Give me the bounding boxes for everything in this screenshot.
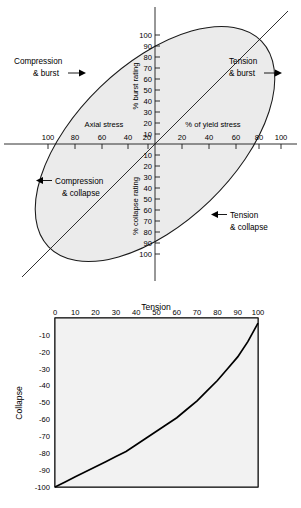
callout-tension-collapse-line2: & collapse — [230, 223, 268, 232]
arrow-right-icon — [275, 70, 282, 77]
x-tick-label: 40 — [132, 308, 140, 317]
x-tick-label: 100 — [252, 308, 265, 317]
arrow-right-icon — [79, 70, 86, 77]
callout-compression-collapse-line2: & collapse — [62, 189, 100, 198]
axis-label-axial-stress: Axial stress — [85, 120, 124, 129]
x-tick-label: 90 — [233, 308, 241, 317]
y-axis-tick-labels: -10-20-30-40-50-60-70-80-90-100 — [35, 331, 50, 492]
tension-collapse-chart-figure: 0102030405060708090100 -10-20-30-40-50-6… — [0, 300, 301, 508]
y-tick-label: -10 — [39, 331, 50, 340]
x-tick-label: 10 — [71, 308, 79, 317]
x-tick-right-80: 80 — [255, 133, 263, 142]
x-tick-right-60: 60 — [232, 133, 240, 142]
y-tick-burst-90: 90 — [144, 42, 152, 51]
callout-compression-burst-line2: & burst — [33, 69, 60, 78]
y-tick-label: -70 — [39, 432, 50, 441]
y-tick-label: -20 — [39, 348, 50, 357]
axis-label-collapse-rating: % collapse rating — [131, 177, 140, 235]
axis-label-burst-rating: % burst rating — [131, 63, 140, 110]
y-tick-label: -50 — [39, 398, 50, 407]
x-tick-label: 30 — [112, 308, 120, 317]
y-tick-burst-20: 20 — [144, 119, 152, 128]
callout-tension-burst-line2: & burst — [229, 69, 256, 78]
x-tick-label: 0 — [53, 308, 57, 317]
y-tick-collapse-60: 60 — [144, 206, 152, 215]
plot-border — [55, 318, 258, 487]
y-tick-label: -30 — [39, 365, 50, 374]
y-tick-collapse-40: 40 — [144, 184, 152, 193]
y-tick-label: -60 — [39, 415, 50, 424]
callout-tension-burst-line1: Tension — [229, 57, 258, 66]
y-tick-burst-60: 60 — [144, 75, 152, 84]
callout-tension-collapse-line1: Tension — [230, 211, 259, 220]
y-tick-label: -100 — [35, 483, 50, 492]
callout-tension-collapse: Tension & collapse — [211, 211, 268, 232]
callout-compression-burst-line1: Compression — [14, 57, 63, 66]
y-tick-burst-40: 40 — [144, 97, 152, 106]
x-tick-right-20: 20 — [178, 133, 186, 142]
y-tick-label: -90 — [39, 466, 50, 475]
y-tick-collapse-50: 50 — [144, 195, 152, 204]
x-tick-label: 80 — [213, 308, 221, 317]
y-tick-label: -80 — [39, 449, 50, 458]
y-tick-burst-100: 100 — [139, 31, 152, 40]
y-tick-burst-10: 10 — [144, 130, 152, 139]
y-tick-collapse-90: 90 — [144, 239, 152, 248]
figure-page: 100 80 60 40 20 20 40 60 80 100 — [0, 0, 301, 508]
y-tick-collapse-30: 30 — [144, 173, 152, 182]
x-tick-right-40: 40 — [205, 133, 213, 142]
y-tick-collapse-20: 20 — [144, 162, 152, 171]
x-tick-label: 20 — [91, 308, 99, 317]
tension-collapse-svg: 0102030405060708090100 -10-20-30-40-50-6… — [0, 300, 301, 508]
x-tick-label: 70 — [193, 308, 201, 317]
y-tick-collapse-80: 80 — [144, 228, 152, 237]
stress-ellipse-figure: 100 80 60 40 20 20 40 60 80 100 — [0, 0, 301, 300]
y-tick-burst-50: 50 — [144, 86, 152, 95]
callout-compression-burst: Compression & burst — [14, 57, 86, 78]
y-tick-label: -40 — [39, 381, 50, 390]
x-axis-title: Tension — [141, 302, 171, 312]
y-tick-collapse-10: 10 — [144, 151, 152, 160]
x-tick-right-100: 100 — [275, 133, 288, 142]
y-axis-title: Collapse — [14, 386, 24, 420]
x-tick-left-60: 60 — [98, 133, 106, 142]
x-tick-left-100: 100 — [42, 133, 55, 142]
y-tick-burst-30: 30 — [144, 108, 152, 117]
y-tick-collapse-70: 70 — [144, 217, 152, 226]
y-tick-burst-80: 80 — [144, 53, 152, 62]
arrow-left-icon — [211, 211, 218, 218]
axis-label-yield-stress: % of yield stress — [185, 120, 240, 129]
x-tick-left-80: 80 — [71, 133, 79, 142]
x-tick-label: 60 — [173, 308, 181, 317]
y-tick-burst-70: 70 — [144, 64, 152, 73]
callout-compression-collapse-line1: Compression — [55, 177, 104, 186]
x-tick-left-40: 40 — [124, 133, 132, 142]
ellipse-svg: 100 80 60 40 20 20 40 60 80 100 — [0, 0, 301, 300]
y-tick-collapse-100: 100 — [139, 250, 152, 259]
